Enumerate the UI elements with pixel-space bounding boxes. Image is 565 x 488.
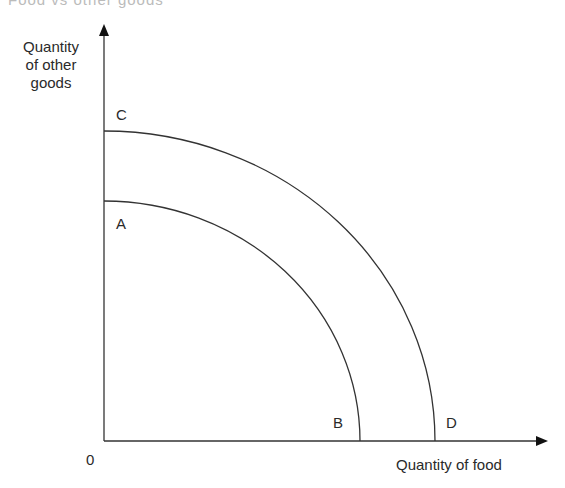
y-axis-arrow-icon: [99, 24, 109, 36]
point-c-label: C: [116, 106, 127, 123]
y-axis-label: Quantityof othergoods: [10, 38, 92, 92]
point-d-label: D: [446, 414, 457, 431]
x-axis-label: Quantity of food: [396, 456, 502, 473]
x-axis-arrow-icon: [536, 436, 548, 446]
y-axis-label-line: Quantity: [10, 38, 92, 56]
y-axis-label-line: of other: [10, 56, 92, 74]
curve-cd: [104, 131, 435, 441]
y-axis-label-line: goods: [10, 74, 92, 92]
origin-label: 0: [86, 451, 94, 468]
point-b-label: B: [333, 414, 343, 431]
curve-ab: [104, 201, 360, 441]
point-a-label: A: [116, 215, 126, 232]
